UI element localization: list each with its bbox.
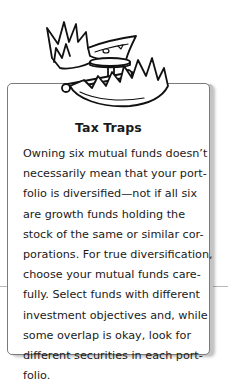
body-line: different securities in each port- — [23, 346, 209, 366]
body-line: stock of the same or similar cor- — [23, 225, 209, 245]
sidebar-title: Tax Traps — [8, 120, 209, 135]
body-line: fully. Select funds with different — [23, 285, 209, 305]
body-line: folio. — [23, 366, 209, 383]
body-line: necessarily mean that your port- — [23, 164, 209, 184]
body-line: choose your mutual funds care- — [23, 265, 209, 285]
tax-traps-sidebar: Tax Traps Owning six mutual funds doesn’… — [7, 83, 210, 355]
body-line: some overlap is okay, look for — [23, 326, 209, 346]
bear-trap-icon — [40, 14, 180, 110]
body-line: porations. For true diversification, — [23, 245, 209, 265]
body-line: Owning six mutual funds doesn’t — [23, 144, 209, 164]
body-line: folio is diversified—not if all six — [23, 184, 209, 204]
sidebar-body: Owning six mutual funds doesn’t necessar… — [23, 144, 209, 383]
body-line: are growth funds holding the — [23, 205, 209, 225]
body-line: investment objectives and, while — [23, 306, 209, 326]
